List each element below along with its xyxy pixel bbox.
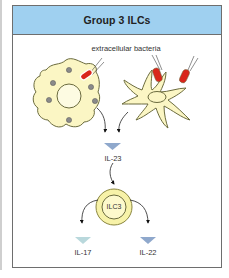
nucleus <box>57 84 81 108</box>
nucleus <box>148 92 166 103</box>
il17-cytokine-icon <box>75 237 91 244</box>
arrow-macrophage-il23 <box>97 108 105 132</box>
arrow-ilc3-il17 <box>82 200 98 223</box>
il23-cytokine-icon <box>104 143 121 150</box>
bacterium-icon <box>178 56 198 84</box>
arrow-il23-ilc3 <box>110 163 114 184</box>
macrophage-cell <box>33 58 104 127</box>
ilc3-label: ILC3 <box>107 203 122 210</box>
il22-label: IL-22 <box>139 248 156 257</box>
bacteria-label: extracellular bacteria <box>91 44 160 53</box>
diagram-canvas <box>0 0 229 278</box>
il22-cytokine-icon <box>140 237 156 244</box>
arrow-dc-il23 <box>119 112 128 132</box>
il23-label: IL-23 <box>104 154 121 163</box>
il17-label: IL-17 <box>74 248 91 257</box>
arrow-ilc3-il22 <box>130 200 148 223</box>
bacterium-icon <box>152 55 163 83</box>
dendritic-cell <box>122 55 198 128</box>
